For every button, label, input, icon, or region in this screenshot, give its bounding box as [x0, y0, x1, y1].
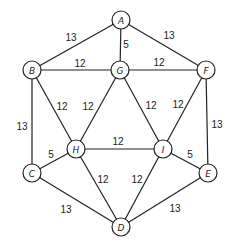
node-label: D — [118, 223, 125, 233]
node-h: H — [67, 140, 85, 158]
edge-weight-g-f: 12 — [153, 57, 165, 68]
node-b: B — [23, 61, 41, 79]
edge-weight-c-d: 13 — [60, 204, 72, 215]
edge-weight-f-e: 13 — [211, 119, 223, 130]
node-label: G — [117, 66, 124, 76]
edge-weight-c-h: 5 — [48, 149, 54, 160]
node-label: C — [29, 169, 36, 179]
edge-weight-b-g: 12 — [74, 58, 86, 69]
edge-weight-a-b: 13 — [65, 32, 77, 43]
node-label: B — [29, 66, 35, 76]
edge-weight-h-d: 12 — [97, 174, 109, 185]
edge-f-e — [206, 70, 208, 173]
edge-weight-i-d: 12 — [131, 174, 143, 185]
edge-i-d — [121, 149, 163, 227]
edge-weight-b-h: 12 — [56, 101, 68, 112]
node-i: I — [154, 140, 172, 158]
node-e: E — [199, 164, 217, 182]
edge-weight-b-c: 13 — [16, 121, 28, 132]
edge-weight-a-g: 5 — [123, 39, 129, 50]
edge-f-i — [163, 70, 206, 149]
edge-weight-g-h: 12 — [82, 101, 94, 112]
node-g: G — [111, 61, 129, 79]
node-label: A — [117, 16, 124, 26]
node-label: I — [162, 145, 165, 155]
edges-layer — [32, 20, 208, 227]
edge-weight-a-f: 13 — [163, 30, 175, 41]
edge-weight-e-d: 13 — [169, 203, 181, 214]
node-d: D — [112, 218, 130, 236]
edge-weight-f-i: 12 — [172, 99, 184, 110]
edge-weight-i-e: 5 — [187, 149, 193, 160]
node-label: F — [203, 66, 209, 76]
edge-h-d — [76, 149, 121, 227]
edge-b-h — [32, 70, 76, 149]
edge-weight-g-i: 12 — [145, 100, 157, 111]
node-c: C — [23, 164, 41, 182]
edge-weight-h-i: 12 — [112, 136, 124, 147]
weighted-graph: 135131212121212121313125512121313 ABGFHI… — [0, 0, 234, 247]
node-label: E — [205, 169, 211, 179]
node-label: H — [73, 145, 80, 155]
node-a: A — [112, 11, 130, 29]
node-f: F — [197, 61, 215, 79]
